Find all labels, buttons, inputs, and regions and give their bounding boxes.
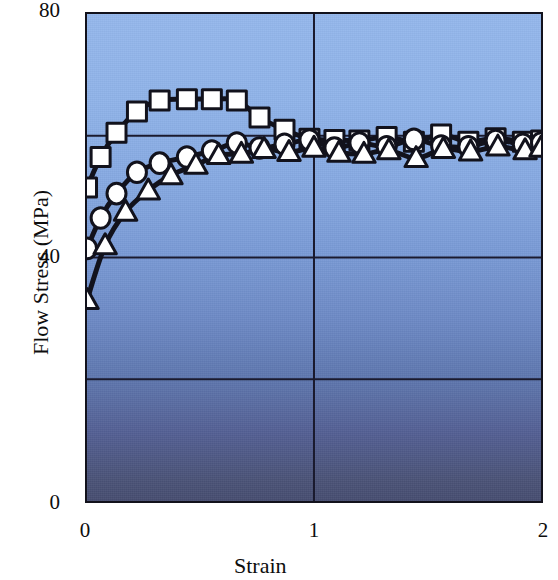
x-axis-title: Strain bbox=[234, 553, 287, 579]
y-tick-label-80: 80 bbox=[0, 0, 60, 21]
x-tick-label-0: 0 bbox=[55, 520, 115, 541]
plot-area bbox=[85, 12, 543, 503]
x-tick-label-2: 2 bbox=[513, 520, 558, 541]
y-axis-title: Flow Stress (MPa) bbox=[28, 190, 54, 355]
x-tick-label-1: 1 bbox=[284, 520, 344, 541]
y-tick-label-0: 0 bbox=[0, 492, 60, 513]
chart-figure: 80 40 0 0 1 2 Flow Stress (MPa) Strain bbox=[0, 0, 558, 580]
chart-canvas bbox=[87, 14, 541, 501]
